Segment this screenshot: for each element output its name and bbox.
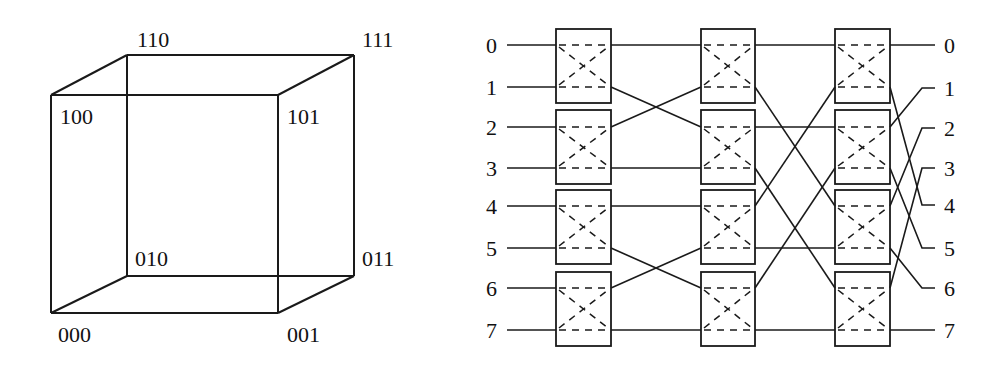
vertex-label-101: 101 — [287, 104, 320, 129]
output-wire — [890, 248, 935, 288]
switch-box-stage-1-2 — [556, 190, 611, 264]
multistage-network-diagram: 0123456701234567 — [486, 29, 955, 346]
switch-box-stage-1-0 — [556, 29, 611, 103]
output-label-5: 5 — [944, 236, 955, 261]
input-label-0: 0 — [486, 33, 497, 58]
output-wire — [890, 87, 935, 205]
switch-box-stage-3-0 — [835, 29, 890, 103]
output-label-2: 2 — [944, 116, 955, 141]
switch-box-stage-1-1 — [556, 110, 611, 184]
vertex-label-100: 100 — [60, 104, 93, 129]
output-label-7: 7 — [944, 318, 955, 343]
input-label-4: 4 — [486, 194, 497, 219]
input-label-5: 5 — [486, 236, 497, 261]
switch-box-stage-3-2 — [835, 190, 890, 264]
output-label-6: 6 — [944, 276, 955, 301]
input-label-1: 1 — [486, 75, 497, 100]
vertex-label-011: 011 — [362, 246, 394, 271]
vertex-label-010: 010 — [135, 246, 168, 271]
output-label-3: 3 — [944, 156, 955, 181]
input-label-3: 3 — [486, 156, 497, 181]
switch-box-stage-3-1 — [835, 110, 890, 184]
vertex-label-001: 001 — [287, 322, 320, 347]
output-label-1: 1 — [944, 76, 955, 101]
cross-path — [704, 129, 752, 166]
cube-edge-001-011 — [278, 276, 354, 313]
switch-box-stage-1-3 — [556, 272, 611, 346]
vertex-label-000: 000 — [58, 322, 91, 347]
switch-box-stage-3-3 — [835, 272, 890, 346]
cube-edge-000-010 — [51, 276, 127, 313]
input-label-2: 2 — [486, 115, 497, 140]
hypercube-diagram: 000001010011100101110111 — [51, 27, 394, 347]
output-wire — [890, 168, 935, 248]
switch-box-stage-2-1 — [701, 110, 755, 184]
switch-box-stage-2-0 — [701, 29, 755, 103]
vertex-label-110: 110 — [137, 27, 169, 52]
cube-edge-100-110 — [51, 55, 127, 95]
switch-box-stage-2-2 — [701, 190, 755, 264]
vertex-label-111: 111 — [362, 27, 393, 52]
output-label-0: 0 — [944, 33, 955, 58]
cube-edge-101-111 — [278, 55, 354, 95]
input-label-6: 6 — [486, 276, 497, 301]
output-label-4: 4 — [944, 193, 955, 218]
switch-box-stage-2-3 — [701, 272, 755, 346]
figure-canvas: 000001010011100101110111 012345670123456… — [0, 0, 1006, 371]
output-wire — [890, 88, 935, 127]
input-label-7: 7 — [486, 318, 497, 343]
